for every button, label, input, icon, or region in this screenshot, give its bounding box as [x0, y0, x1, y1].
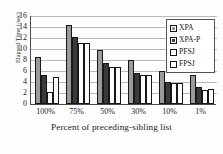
bar[interactable] — [208, 89, 214, 104]
bar-group — [62, 16, 93, 104]
bar[interactable] — [84, 43, 90, 104]
y-tick-2: 2 — [11, 89, 27, 97]
y-tick-8: 8 — [11, 56, 27, 64]
x-axis-label: Percent of preceding-sibling list — [0, 122, 223, 132]
y-tick-0: 0 — [11, 100, 27, 108]
y-tick-12: 12 — [11, 34, 27, 42]
x-tick-1%: 1% — [185, 107, 216, 116]
legend-swatch-icon — [170, 37, 177, 44]
y-tick-10: 10 — [11, 45, 27, 53]
bar-group — [93, 16, 124, 104]
bar[interactable] — [53, 77, 59, 105]
legend-label: XPA — [179, 24, 194, 32]
x-tick-30%: 30% — [123, 107, 154, 116]
bar-chart: Elapsed Time (/sec) 1614121086420 100%75… — [0, 0, 223, 154]
x-axis-tick-labels: 100%75%50%30%10%1% — [30, 107, 216, 116]
bar-group — [124, 16, 155, 104]
legend-item-pfsj[interactable]: PFSJ — [170, 46, 212, 58]
bar[interactable] — [115, 67, 121, 104]
y-tick-6: 6 — [11, 67, 27, 75]
x-tick-100%: 100% — [30, 107, 61, 116]
x-tick-75%: 75% — [61, 107, 92, 116]
legend-swatch-icon — [170, 25, 177, 32]
legend-label: XPA-P — [179, 36, 200, 44]
legend-item-xpa-p[interactable]: XPA-P — [170, 34, 212, 46]
legend-label: PFSJ — [179, 48, 195, 56]
legend-item-xpa[interactable]: XPA — [170, 22, 212, 34]
y-tick-16: 16 — [11, 12, 27, 20]
legend: XPAXPA-PPFSJFPSJ — [166, 19, 215, 73]
legend-label: FPSJ — [179, 60, 195, 68]
x-tick-50%: 50% — [92, 107, 123, 116]
bar[interactable] — [177, 83, 183, 104]
legend-swatch-icon — [170, 49, 177, 56]
legend-swatch-icon — [170, 61, 177, 68]
bar[interactable] — [146, 75, 152, 104]
bar-group — [31, 16, 62, 104]
legend-item-fpsj[interactable]: FPSJ — [170, 58, 212, 70]
y-tick-4: 4 — [11, 78, 27, 86]
y-tick-14: 14 — [11, 23, 27, 31]
x-tick-10%: 10% — [154, 107, 185, 116]
